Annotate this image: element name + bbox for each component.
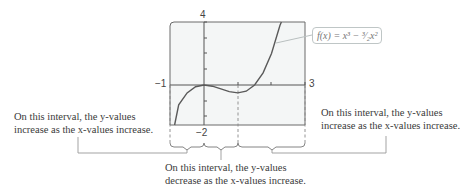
annotation-middle-line2: decrease as the x-values increase. [165, 174, 306, 187]
plot-frame [170, 22, 305, 125]
y-max-label: 4 [200, 9, 206, 20]
x-min-label: −1 [155, 78, 166, 89]
function-label-callout: f(x) = x³ − ³⁄₂x² [312, 27, 382, 44]
interval-brackets [170, 143, 305, 150]
annotation-right: On this interval, the y-values increase … [321, 106, 460, 132]
function-label: f(x) = x³ − ³⁄₂x² [317, 30, 377, 41]
x-max-label: 3 [309, 78, 315, 89]
y-min-label: −2 [196, 127, 207, 138]
annotation-left: On this interval, the y-values increase … [14, 110, 153, 136]
annotation-connectors [78, 136, 386, 160]
annotation-right-line1: On this interval, the y-values [321, 106, 460, 119]
annotation-middle-line1: On this interval, the y-values [165, 161, 306, 174]
annotation-left-line1: On this interval, the y-values [14, 110, 153, 123]
annotation-right-line2: increase as the x-values increase. [321, 119, 460, 132]
annotation-left-line2: increase as the x-values increase. [14, 123, 153, 136]
annotation-middle: On this interval, the y-values decrease … [165, 161, 306, 187]
